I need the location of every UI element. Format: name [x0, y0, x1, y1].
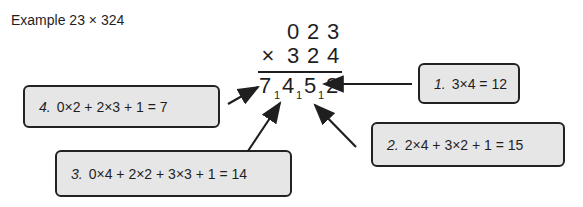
arrow-4: [228, 87, 258, 104]
arrows: [0, 0, 583, 207]
arrow-2: [315, 105, 356, 147]
arrow-3: [248, 103, 280, 151]
